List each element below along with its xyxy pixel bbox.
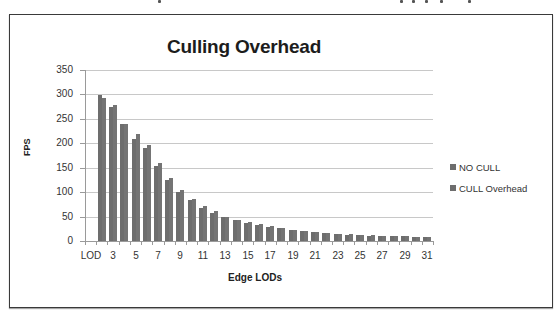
- x-tick: [152, 241, 153, 245]
- x-tick: [287, 241, 288, 245]
- x-tick: [186, 241, 187, 245]
- y-tick-label: 250: [40, 113, 73, 125]
- x-axis-title: Edge LODs: [200, 272, 310, 283]
- x-tick: [310, 241, 311, 245]
- x-tick: [96, 241, 97, 245]
- bar-cull-overhead: [158, 163, 162, 241]
- bar-cull-overhead: [259, 224, 263, 241]
- x-tick: [399, 241, 400, 245]
- x-tick: [332, 241, 333, 245]
- bar-cull-overhead: [304, 231, 308, 241]
- x-tick: [164, 241, 165, 245]
- legend: NO CULL CULL Overhead: [450, 160, 527, 202]
- bar-cull-overhead: [237, 220, 241, 241]
- x-tick: [343, 241, 344, 245]
- x-tick: [411, 241, 412, 245]
- bar-cull-overhead: [315, 232, 319, 241]
- x-tick: [354, 241, 355, 245]
- y-tick-label: 350: [40, 64, 73, 76]
- cropped-text-fragment: [150, 0, 480, 4]
- y-tick-label: 150: [40, 162, 73, 174]
- bar-cull-overhead: [180, 190, 184, 241]
- y-tick-label: 200: [40, 137, 73, 149]
- x-tick: [107, 241, 108, 245]
- x-tick: [422, 241, 423, 245]
- bar-cull-overhead: [147, 145, 151, 241]
- bar-cull-overhead: [102, 98, 106, 241]
- legend-label: NO CULL: [459, 162, 500, 173]
- bar-cull-overhead: [326, 233, 330, 241]
- bar-cull-overhead: [225, 217, 229, 241]
- chart-title: Culling Overhead: [9, 36, 479, 58]
- x-tick: [220, 241, 221, 245]
- x-tick: [253, 241, 254, 245]
- y-tick-label: 300: [40, 88, 73, 100]
- bar-cull-overhead: [124, 124, 128, 241]
- bar-cull-overhead: [349, 234, 353, 241]
- x-tick: [388, 241, 389, 245]
- x-tick: [175, 241, 176, 245]
- plot-area: [85, 70, 433, 241]
- bar-cull-overhead: [248, 222, 252, 241]
- x-tick: [276, 241, 277, 245]
- legend-swatch-icon: [450, 164, 456, 170]
- bar-cull-overhead: [113, 105, 117, 241]
- x-tick: [298, 241, 299, 245]
- x-tick: [377, 241, 378, 245]
- y-axis: [85, 70, 86, 242]
- legend-item-no-cull: NO CULL: [450, 160, 527, 174]
- bar-cull-overhead: [281, 228, 285, 241]
- x-tick: [85, 241, 86, 245]
- legend-item-cull-overhead: CULL Overhead: [450, 181, 527, 195]
- x-tick: [366, 241, 367, 245]
- bar-cull-overhead: [270, 226, 274, 241]
- bar-cull-overhead: [338, 234, 342, 241]
- x-tick: [265, 241, 266, 245]
- bar-cull-overhead: [169, 178, 173, 241]
- x-tick: [321, 241, 322, 245]
- x-tick: [130, 241, 131, 245]
- x-tick: [433, 241, 434, 245]
- x-tick: [141, 241, 142, 245]
- bar-cull-overhead: [293, 230, 297, 241]
- x-tick-label: 31: [412, 250, 442, 261]
- x-tick: [242, 241, 243, 245]
- x-tick: [231, 241, 232, 245]
- bar-cull-overhead: [136, 134, 140, 241]
- y-tick-label: 50: [40, 211, 73, 223]
- bar-cull-overhead: [192, 199, 196, 242]
- bar-cull-overhead: [203, 206, 207, 241]
- legend-label: CULL Overhead: [459, 183, 527, 194]
- x-tick: [119, 241, 120, 245]
- x-axis: [85, 241, 433, 242]
- y-tick-label: 100: [40, 186, 73, 198]
- legend-swatch-icon: [450, 185, 456, 191]
- x-tick: [197, 241, 198, 245]
- bar-cull-overhead: [214, 211, 218, 241]
- y-tick-label: 0: [40, 235, 73, 247]
- x-tick: [208, 241, 209, 245]
- y-axis-title: FPS: [22, 138, 32, 156]
